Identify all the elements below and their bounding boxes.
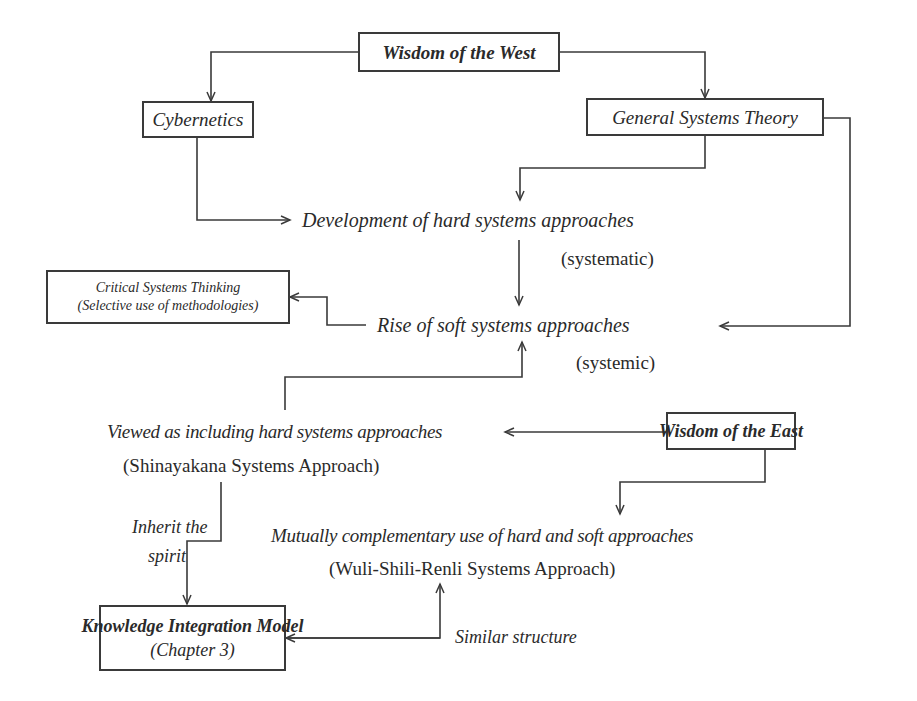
node-shinayakana: Viewed as including hard systems approac…: [107, 422, 442, 441]
edge-label-similar-structure: Similar structure: [455, 628, 577, 646]
edge-west-to-gst: [560, 52, 705, 98]
edge-gst-to-hard: [520, 134, 705, 200]
node-knowledge-integration-model: Knowledge Integration Model (Chapter 3): [99, 605, 286, 671]
node-label: Knowledge Integration Model: [81, 617, 303, 635]
node-label-line1: Critical Systems Thinking: [96, 281, 241, 295]
hard-systems-note: (systematic): [561, 249, 654, 268]
node-critical-systems: Critical Systems Thinking (Selective use…: [46, 270, 290, 324]
node-wisdom-east: Wisdom of the East: [666, 412, 796, 450]
node-wisdom-west: Wisdom of the West: [358, 32, 560, 72]
soft-systems-note: (systemic): [576, 353, 655, 372]
node-label-line2: (Selective use of methodologies): [78, 299, 259, 313]
wsr-note: (Wuli-Shili-Renli Systems Approach): [329, 559, 615, 578]
node-wsr: Mutually complementary use of hard and s…: [271, 526, 693, 545]
node-cybernetics: Cybernetics: [142, 101, 254, 138]
node-label: Cybernetics: [153, 110, 244, 129]
edge-cybernetics-to-hard: [197, 137, 290, 220]
node-label: Wisdom of the East: [659, 422, 803, 440]
node-general-systems-theory: General Systems Theory: [586, 98, 824, 136]
node-soft-systems: Rise of soft systems approaches: [377, 315, 630, 335]
node-label: General Systems Theory: [612, 108, 798, 127]
edge-shinayakana-to-knowledge: [187, 482, 221, 604]
node-label: Wisdom of the West: [382, 43, 535, 62]
node-hard-systems: Development of hard systems approaches: [302, 210, 634, 230]
edge-knowledge-to-wsr: [286, 584, 440, 638]
edge-label-inherit-1: Inherit the: [132, 518, 207, 536]
edge-west-to-cybernetics: [211, 52, 358, 101]
edge-label-inherit-2: spirit: [148, 547, 186, 565]
edge-east-to-wsr: [620, 450, 765, 514]
node-note: (Chapter 3): [150, 641, 235, 659]
shinayakana-note: (Shinayakana Systems Approach): [123, 456, 379, 475]
edge-soft-to-critical: [290, 297, 366, 325]
edge-shinayakana-to-soft: [285, 342, 522, 410]
